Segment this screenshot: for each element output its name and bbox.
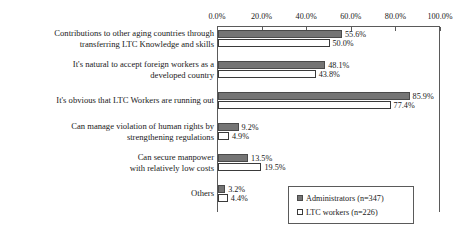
category-label-line: Can secure manpower xyxy=(4,152,214,163)
category-label-line: Can manage violation of human rights by xyxy=(4,121,214,132)
category-label-line: developed country xyxy=(4,70,214,81)
category-rows: Contributions to other aging countries t… xyxy=(0,26,452,212)
category-label: Can manage violation of human rights bys… xyxy=(4,121,214,142)
bar-value-label: 4.9% xyxy=(232,132,249,141)
category-label: Can secure manpowerwith relatively low c… xyxy=(4,152,214,173)
x-axis-tick-label: 60.0% xyxy=(340,11,361,22)
category-bars: 9.2%4.9% xyxy=(218,119,441,150)
x-axis-tick-label: 100.0% xyxy=(427,11,452,22)
category-label: Others xyxy=(4,188,214,199)
bar-value-label: 9.2% xyxy=(242,123,259,132)
filled-square-icon xyxy=(297,195,303,201)
category-label: It's natural to accept foreign workers a… xyxy=(4,59,214,80)
bar-ltc xyxy=(218,39,330,47)
legend-item-label: LTC workers (n=226) xyxy=(306,208,378,217)
legend-item: Administrators (n=347) xyxy=(297,191,413,205)
category-label-line: transferring LTC Knowledge and skills xyxy=(4,39,214,50)
chart-category-row: Can secure manpowerwith relatively low c… xyxy=(0,150,452,181)
bar-admin xyxy=(218,30,342,38)
x-axis-tick-labels: 0.0%20.0%40.0%60.0%80.0%100.0% xyxy=(217,11,440,23)
x-axis-tick-label: 80.0% xyxy=(385,11,406,22)
bar-admin xyxy=(218,154,248,162)
bar-value-label: 3.2% xyxy=(228,185,245,194)
bar-ltc xyxy=(218,101,391,109)
bar-admin xyxy=(218,92,410,100)
chart-category-row: Can manage violation of human rights bys… xyxy=(0,119,452,150)
bar-admin xyxy=(218,61,325,69)
category-label: Contributions to other aging countries t… xyxy=(4,28,214,49)
category-bars: 55.6%50.0% xyxy=(218,26,441,57)
legend-item: LTC workers (n=226) xyxy=(297,205,413,219)
bar-ltc xyxy=(218,163,261,171)
bar-value-label: 48.1% xyxy=(328,61,349,70)
empty-square-icon xyxy=(297,209,303,215)
x-axis-tick-label: 0.0% xyxy=(208,11,225,22)
bar-ltc xyxy=(218,194,228,202)
chart-category-row: Contributions to other aging countries t… xyxy=(0,26,452,57)
category-label-line: It's obvious that LTC Workers are runnin… xyxy=(4,95,214,106)
bar-admin xyxy=(218,123,239,131)
bar-value-label: 4.4% xyxy=(231,194,248,203)
chart-category-row: It's obvious that LTC Workers are runnin… xyxy=(0,88,452,119)
category-label-line: with relatively low costs xyxy=(4,163,214,174)
bar-ltc xyxy=(218,70,316,78)
bar-admin xyxy=(218,185,225,193)
category-label-line: strengthening regulations xyxy=(4,132,214,143)
bar-value-label: 13.5% xyxy=(251,154,272,163)
chart-category-row: It's natural to accept foreign workers a… xyxy=(0,57,452,88)
category-label-line: It's natural to accept foreign workers a… xyxy=(4,59,214,70)
legend-item-label: Administrators (n=347) xyxy=(306,194,384,203)
category-bars: 85.9%77.4% xyxy=(218,88,441,119)
category-label-line: Contributions to other aging countries t… xyxy=(4,28,214,39)
category-bars: 13.5%19.5% xyxy=(218,150,441,181)
bar-value-label: 43.8% xyxy=(319,70,340,79)
chart-legend: Administrators (n=347) LTC workers (n=22… xyxy=(288,186,414,224)
x-axis-tick-label: 20.0% xyxy=(251,11,272,22)
category-label: It's obvious that LTC Workers are runnin… xyxy=(4,95,214,106)
category-bars: 48.1%43.8% xyxy=(218,57,441,88)
bar-value-label: 85.9% xyxy=(413,92,434,101)
bar-value-label: 50.0% xyxy=(333,39,354,48)
bar-value-label: 19.5% xyxy=(264,163,285,172)
category-label-line: Others xyxy=(4,188,214,199)
bar-value-label: 77.4% xyxy=(394,101,415,110)
x-axis-tick-label: 40.0% xyxy=(296,11,317,22)
bar-value-label: 55.6% xyxy=(345,30,366,39)
bar-ltc xyxy=(218,132,229,140)
